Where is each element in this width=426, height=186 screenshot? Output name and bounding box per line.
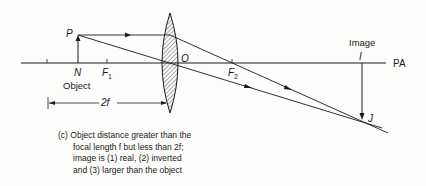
label-P: P [66, 28, 73, 39]
caption-text: Object distance greater than the [70, 130, 191, 140]
caption-line-3: image is (1) real, (2) inverted [58, 153, 191, 165]
label-N: N [74, 67, 81, 78]
image-arrowhead [360, 113, 365, 120]
caption-line-4: and (3) larger than the object [58, 165, 191, 177]
label-image: Image [349, 37, 375, 48]
caption-line-2: focal length f but less than 2f; [58, 142, 191, 154]
label-2f: 2f [101, 97, 109, 108]
label-F2: F2 [228, 67, 238, 82]
label-object: Object [63, 80, 90, 91]
ray-parallel-arrowhead [125, 33, 131, 38]
label-O: O [181, 53, 189, 64]
dim-2f-right-arrowhead [161, 101, 167, 105]
label-F1: F1 [102, 67, 112, 82]
ray-refracted-arrowhead [284, 85, 292, 90]
caption-line-1: (c) Object distance greater than the [58, 130, 191, 142]
label-I: I [359, 51, 362, 62]
figure-caption: (c) Object distance greater than the foc… [58, 130, 191, 176]
ray-refracted [170, 35, 388, 133]
label-J: J [368, 113, 373, 124]
dim-2f-left-arrowhead [49, 101, 55, 105]
label-PA: PA [393, 58, 406, 69]
caption-marker: (c) [58, 130, 68, 140]
ray-center-arrowhead [244, 84, 252, 88]
